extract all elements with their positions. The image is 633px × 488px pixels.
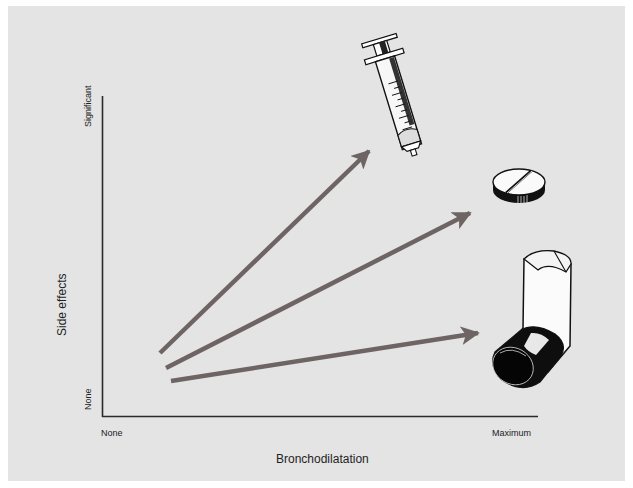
diagram-canvas xyxy=(0,0,633,488)
y-axis-title: Side effects xyxy=(55,274,69,336)
inhaler-icon xyxy=(486,251,571,392)
arrow-to-tablet xyxy=(166,213,470,368)
arrows xyxy=(160,151,478,381)
x-axis-min-label: None xyxy=(101,428,123,438)
arrow-to-syringe xyxy=(160,151,369,353)
syringe-icon xyxy=(360,33,434,161)
x-axis-max-label: Maximum xyxy=(492,428,531,438)
y-axis-max-label: Significant xyxy=(83,85,93,127)
y-axis-min-label: None xyxy=(83,388,93,410)
x-axis-title: Bronchodilatation xyxy=(276,452,369,466)
tablet-icon xyxy=(493,169,545,204)
